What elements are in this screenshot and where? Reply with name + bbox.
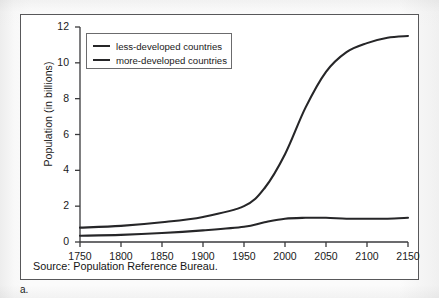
legend-label: more-developed countries: [116, 55, 227, 66]
y-tick-label: 4: [47, 163, 69, 175]
legend-line-swatch-icon: [93, 59, 110, 61]
line-more-developed-countries: [80, 218, 408, 236]
x-tick-label: 2100: [347, 250, 387, 262]
y-tick-label: 12: [47, 20, 69, 32]
chart-legend: less-developed countries more-developed …: [86, 33, 232, 69]
x-tick-label: 2150: [388, 250, 428, 262]
legend-item-more-developed: more-developed countries: [93, 53, 227, 67]
x-axis-ticks: [80, 242, 408, 247]
legend-item-less-developed: less-developed countries: [93, 39, 222, 53]
source-caption: Source: Population Reference Bureau.: [33, 260, 218, 272]
y-tick-label: 6: [47, 128, 69, 140]
x-tick-label: 2050: [306, 250, 346, 262]
y-axis-ticks: [75, 27, 80, 242]
chart-plot-area: Population (in billions) 024681012 17501…: [21, 15, 420, 255]
figure-page: Population (in billions) 024681012 17501…: [0, 0, 439, 298]
legend-label: less-developed countries: [116, 41, 222, 52]
y-tick-label: 10: [47, 56, 69, 68]
x-tick-label: 1950: [224, 250, 264, 262]
x-tick-label: 2000: [265, 250, 305, 262]
y-tick-label: 8: [47, 92, 69, 104]
legend-line-swatch-icon: [93, 45, 110, 47]
y-tick-label: 0: [47, 235, 69, 247]
figure-label: a.: [20, 284, 28, 295]
figure-frame: Population (in billions) 024681012 17501…: [20, 14, 419, 280]
y-tick-label: 2: [47, 199, 69, 211]
